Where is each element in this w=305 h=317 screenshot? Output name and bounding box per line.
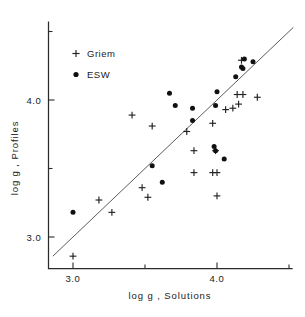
data-point-dot	[190, 118, 195, 123]
data-point-dot	[173, 103, 178, 108]
data-point-plus	[96, 197, 103, 204]
data-point-dot	[215, 89, 220, 94]
data-point-plus	[149, 123, 156, 130]
axis-spines	[49, 22, 293, 269]
x-axis-title: log g , Solutions	[129, 290, 212, 301]
data-point-plus	[129, 112, 136, 119]
data-point-plus	[191, 169, 198, 176]
axis-titles-group: log g , Solutions log g , Profiles	[9, 121, 211, 301]
data-point-dot	[167, 91, 172, 96]
data-point-dot	[190, 106, 195, 111]
data-point-plus	[235, 101, 242, 108]
data-point-dot	[71, 210, 76, 215]
plus-marker	[72, 50, 79, 57]
data-point-plus	[209, 120, 216, 127]
x-tick-label: 4.0	[209, 273, 224, 284]
tick-marks-layer	[49, 32, 290, 269]
data-point-plus	[222, 106, 229, 113]
one-to-one-reference-line	[53, 27, 293, 256]
data-point-plus	[144, 194, 151, 201]
data-point-dot	[251, 59, 256, 64]
x-tick-label: 3.0	[65, 273, 80, 284]
data-point-dot	[233, 74, 238, 79]
data-point-dot	[150, 163, 155, 168]
plot-canvas: 3.04.03.04.0 log g , Solutions log g , P…	[0, 0, 305, 317]
data-point-plus	[183, 128, 190, 135]
legend-label: ESW	[87, 69, 110, 80]
data-point-dot	[213, 103, 218, 108]
data-points-layer	[70, 56, 261, 259]
data-point-dot	[213, 148, 218, 153]
data-point-plus	[214, 193, 221, 200]
data-point-plus	[108, 209, 115, 216]
series-griem	[70, 57, 261, 260]
data-point-plus	[139, 184, 146, 191]
legend-entry-griem: Griem	[72, 48, 115, 59]
data-point-plus	[70, 253, 77, 260]
tick-labels-layer: 3.04.03.04.0	[26, 95, 224, 284]
y-tick-label: 3.0	[26, 232, 41, 243]
data-point-plus	[191, 147, 198, 154]
data-point-plus	[229, 105, 236, 112]
data-point-plus	[240, 91, 247, 98]
data-point-plus	[214, 169, 221, 176]
data-point-plus	[254, 94, 261, 101]
data-point-dot	[160, 180, 165, 185]
data-point-dot	[240, 66, 245, 71]
data-point-dot	[242, 56, 247, 61]
y-tick-label: 4.0	[26, 95, 41, 106]
y-axis-title: log g , Profiles	[9, 121, 20, 196]
scatter-plot-figure: 3.04.03.04.0 log g , Solutions log g , P…	[0, 0, 305, 317]
legend: GriemESW	[72, 48, 115, 80]
legend-entry-esw: ESW	[73, 69, 110, 80]
data-point-dot	[222, 156, 227, 161]
dot-marker	[73, 72, 78, 77]
series-esw	[71, 56, 256, 214]
legend-label: Griem	[87, 48, 115, 59]
reference-line-group	[53, 27, 293, 256]
